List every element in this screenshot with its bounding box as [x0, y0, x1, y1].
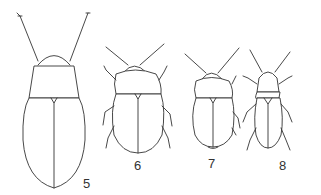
figure-label-6: 6 — [134, 158, 141, 173]
figure-label-5: 5 — [83, 176, 90, 191]
figure-label-7: 7 — [208, 156, 215, 171]
beetle-6 — [103, 44, 172, 153]
figure-label-8: 8 — [279, 158, 286, 173]
beetle-plate — [0, 0, 321, 195]
beetle-5 — [17, 13, 90, 188]
beetle-7 — [185, 48, 240, 149]
beetle-8 — [243, 50, 292, 150]
